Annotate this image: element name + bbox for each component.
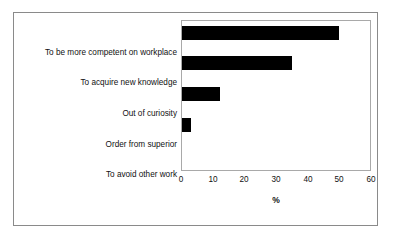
chart-figure: To be more competent on workplace To acq… [0,0,396,238]
category-label-3: Order from superior [14,140,177,150]
bar-2 [182,87,220,101]
x-tick-5: 50 [324,174,354,185]
x-tick-6: 60 [356,174,386,185]
x-tick-2: 20 [229,174,259,185]
category-label-2: Out of curiosity [14,109,177,119]
x-tick-0: 0 [166,174,196,185]
bar-1 [182,56,292,70]
category-axis-labels: To be more competent on workplace To acq… [14,20,177,171]
bars-layer [182,21,370,170]
x-axis-title: % [181,195,371,205]
bar-0 [182,26,339,40]
category-label-0: To be more competent on workplace [14,48,177,58]
category-label-1: To acquire new knowledge [14,78,177,88]
x-tick-4: 40 [293,174,323,185]
x-tick-1: 10 [198,174,228,185]
x-axis-ticks: 0 10 20 30 40 50 60 [0,174,396,186]
x-tick-3: 30 [261,174,291,185]
bar-3 [182,118,191,132]
